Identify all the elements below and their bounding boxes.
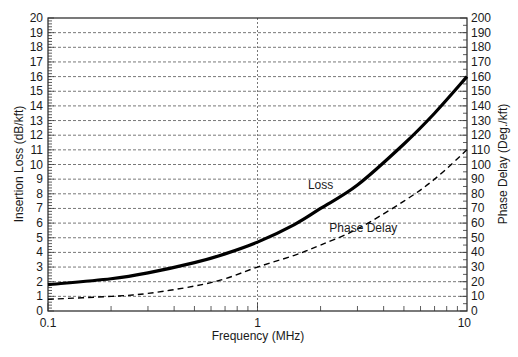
y2-tick-label: 110 xyxy=(471,143,490,157)
y2-tick-label: 170 xyxy=(471,55,491,69)
y-tick-label: 1 xyxy=(36,289,43,303)
y-tick-label: 15 xyxy=(30,84,44,98)
y2-tick-label: 80 xyxy=(471,187,485,201)
y2-tick-label: 130 xyxy=(471,114,491,128)
x-tick-label: 10 xyxy=(458,316,472,330)
y-tick-label: 20 xyxy=(30,11,44,25)
y-tick-label: 5 xyxy=(36,231,43,245)
y-tick-label: 18 xyxy=(30,40,44,54)
y-tick-label: 14 xyxy=(30,99,44,113)
y2-tick-label: 160 xyxy=(471,70,491,84)
insertion-loss-phase-delay-chart: 0123456789101112131415161718192001020304… xyxy=(0,0,518,357)
y2-tick-label: 150 xyxy=(471,84,491,98)
y-tick-label: 3 xyxy=(36,260,43,274)
y-tick-label: 2 xyxy=(36,275,43,289)
y2-axis-title: Phase Delay (Deg./kft) xyxy=(496,104,510,225)
y2-tick-label: 140 xyxy=(471,99,491,113)
y2-tick-label: 20 xyxy=(471,275,485,289)
phase-delay-label: Phase Delay xyxy=(329,221,397,235)
y2-tick-label: 100 xyxy=(471,158,491,172)
x-axis-title: Frequency (MHz) xyxy=(212,329,305,343)
y-tick-label: 16 xyxy=(30,70,44,84)
y-tick-label: 19 xyxy=(30,26,44,40)
y2-tick-label: 40 xyxy=(471,245,485,259)
y2-tick-label: 200 xyxy=(471,11,491,25)
y-tick-label: 17 xyxy=(30,55,44,69)
y-tick-label: 10 xyxy=(30,158,44,172)
y-tick-label: 7 xyxy=(36,201,43,215)
y-tick-label: 13 xyxy=(30,114,44,128)
phase-delay-curve xyxy=(48,150,467,299)
y-tick-label: 6 xyxy=(36,216,43,230)
y2-tick-label: 50 xyxy=(471,231,485,245)
y-tick-label: 11 xyxy=(31,143,44,157)
loss-label: Loss xyxy=(308,178,333,192)
y2-tick-label: 0 xyxy=(471,304,478,318)
y2-tick-label: 10 xyxy=(471,289,485,303)
x-tick-label: 0.1 xyxy=(40,316,57,330)
y2-tick-label: 180 xyxy=(471,40,491,54)
y2-tick-label: 30 xyxy=(471,260,485,274)
y2-tick-label: 70 xyxy=(471,201,485,215)
x-tick-label: 1 xyxy=(254,316,261,330)
y2-tick-label: 190 xyxy=(471,26,491,40)
y-tick-label: 9 xyxy=(36,172,43,186)
y2-tick-label: 60 xyxy=(471,216,485,230)
axis-labels: 0123456789101112131415161718192001020304… xyxy=(30,11,492,330)
y-tick-label: 4 xyxy=(36,245,43,259)
y-axis-title: Insertion Loss (dB/kft) xyxy=(12,106,26,223)
y-tick-label: 12 xyxy=(30,128,44,142)
y2-tick-label: 120 xyxy=(471,128,491,142)
y-tick-label: 8 xyxy=(36,187,43,201)
y2-tick-label: 90 xyxy=(471,172,485,186)
